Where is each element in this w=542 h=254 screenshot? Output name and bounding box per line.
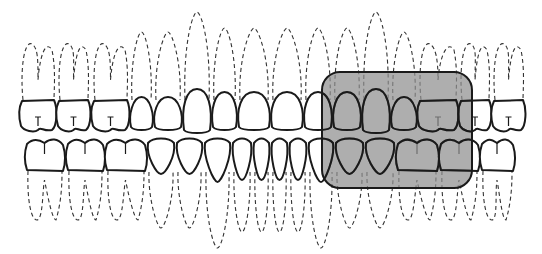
- upper-root: [22, 44, 54, 100]
- lower-root: [483, 171, 512, 220]
- upper-root: [185, 12, 210, 100]
- upper-root: [59, 44, 88, 100]
- lower-root: [206, 172, 229, 248]
- upper-root: [494, 44, 523, 100]
- upper-root: [132, 32, 152, 100]
- upper-root: [94, 44, 127, 100]
- lower-tooth-canine: [205, 139, 231, 183]
- dental-arch-diagram: [0, 0, 542, 254]
- upper-root: [240, 28, 268, 100]
- upper-tooth-molar: [56, 100, 90, 131]
- upper-tooth-incisor: [238, 92, 270, 130]
- upper-tooth-incisor: [271, 92, 303, 130]
- upper-tooth-molar: [91, 100, 129, 131]
- lower-root: [108, 171, 144, 220]
- lower-tooth-incisor: [233, 139, 252, 181]
- lower-tooth-incisor: [290, 139, 307, 181]
- lower-root: [178, 172, 201, 228]
- upper-tooth-incisor: [212, 92, 237, 130]
- upper-tooth-molar: [19, 100, 56, 131]
- upper-tooth-premolar: [154, 97, 182, 130]
- upper-tooth-canine: [183, 89, 211, 133]
- upper-root: [273, 28, 301, 100]
- upper-tooth-premolar: [130, 97, 153, 130]
- lower-tooth-incisor: [254, 139, 270, 181]
- lower-root: [149, 172, 173, 228]
- lower-root: [28, 171, 62, 220]
- lower-tooth-premolar: [177, 139, 203, 175]
- lower-root: [69, 171, 102, 220]
- upper-tooth-molar: [491, 100, 525, 131]
- lower-tooth-premolar: [148, 139, 174, 175]
- upper-root: [214, 28, 236, 100]
- lower-tooth-incisor: [272, 139, 288, 181]
- upper-root: [156, 32, 181, 100]
